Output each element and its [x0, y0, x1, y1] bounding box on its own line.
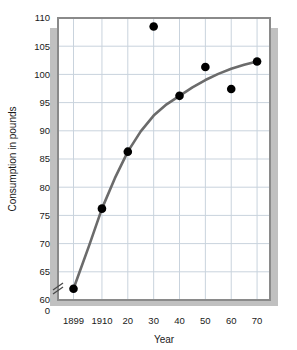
y-axis-tick-label: 60 [39, 294, 50, 305]
chart-figure: 6065707580859095100105110 0 189919102030… [0, 0, 297, 350]
x-axis-tick-label: 40 [174, 315, 185, 326]
y-axis-tick-label: 110 [35, 12, 50, 23]
x-axis-tick-label: 70 [252, 315, 263, 326]
y-axis-title: Consumption in pounds [7, 106, 18, 211]
y-axis-tick-label: 90 [39, 125, 50, 136]
y-axis-tick-label: 75 [39, 210, 50, 221]
x-axis-tick-label: 1899 [63, 315, 84, 326]
data-point-marker [69, 284, 78, 293]
x-axis-tick-label: 50 [200, 315, 211, 326]
y-axis-tick-label: 85 [39, 153, 50, 164]
consumption-vs-year-scatter-chart: 6065707580859095100105110 0 189919102030… [0, 0, 297, 350]
x-axis-tick-label: 1910 [91, 315, 112, 326]
y-axis-tick-label: 80 [39, 182, 50, 193]
y-axis-tick-label: 95 [39, 97, 50, 108]
y-axis-tick-labels: 6065707580859095100105110 [34, 12, 50, 305]
data-point-marker [149, 22, 158, 31]
x-axis-tick-label: 60 [226, 315, 237, 326]
y-axis-tick-label: 105 [34, 41, 50, 52]
y-axis-origin-label: 0 [45, 305, 50, 316]
data-point-marker [175, 92, 184, 101]
data-point-marker [201, 63, 210, 72]
data-point-marker [253, 57, 262, 66]
x-axis-tick-labels: 18991910203040506070 [63, 315, 262, 326]
data-point-marker [124, 147, 133, 156]
data-point-marker [227, 85, 236, 94]
x-axis-tick-label: 20 [123, 315, 134, 326]
y-axis-tick-label: 65 [39, 266, 50, 277]
y-axis-tick-label: 100 [34, 69, 50, 80]
x-axis-tick-label: 30 [148, 315, 159, 326]
y-axis-tick-label: 70 [39, 238, 50, 249]
data-point-marker [98, 204, 107, 213]
x-axis-title: Year [154, 334, 175, 345]
